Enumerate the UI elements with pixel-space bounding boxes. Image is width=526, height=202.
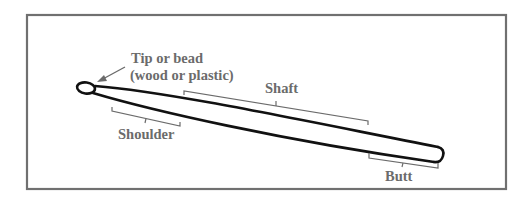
shoulder-label: Shoulder bbox=[118, 126, 175, 142]
drumstick-diagram: Tip or bead (wood or plastic) Shaft Shou… bbox=[0, 0, 526, 202]
shaft-bracket bbox=[184, 91, 368, 125]
shaft-label: Shaft bbox=[265, 80, 298, 96]
butt-label: Butt bbox=[385, 168, 413, 184]
tip-label: Tip or bead bbox=[131, 50, 203, 66]
shoulder-bracket bbox=[112, 107, 180, 126]
tip-sublabel: (wood or plastic) bbox=[130, 67, 234, 84]
stick-butt-end bbox=[434, 147, 443, 162]
tip-arrow bbox=[97, 67, 125, 82]
drumstick bbox=[76, 81, 443, 162]
